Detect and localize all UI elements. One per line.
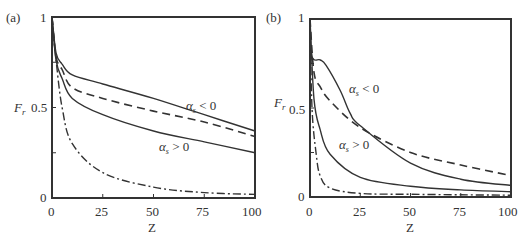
figure: (a) 0 0.5 1 Fr 0 25 50 75 100 Z αs < 0 α… bbox=[0, 0, 532, 239]
x-tick-75: 75 bbox=[453, 204, 466, 219]
y-tick-0: 0 bbox=[298, 189, 305, 204]
x-tick-100: 100 bbox=[498, 204, 518, 219]
panel-b-x-ticks: 0 25 50 75 100 bbox=[306, 204, 518, 219]
panel-a-curves bbox=[52, 17, 255, 198]
panel-a-y-title: Fr bbox=[13, 100, 26, 117]
panel-a-chart: (a) 0 0.5 1 Fr 0 25 50 75 100 Z αs < 0 α… bbox=[6, 10, 262, 235]
x-tick-25: 25 bbox=[353, 204, 366, 219]
y-tick-0-5: 0.5 bbox=[31, 100, 47, 115]
panel-b-y-ticks: 0 0.5 1 bbox=[289, 10, 305, 204]
panel-a-x-ticks: 0 25 50 75 100 bbox=[48, 204, 262, 219]
x-tick-100: 100 bbox=[242, 204, 262, 219]
panel-b-y-title: Fr bbox=[273, 95, 286, 112]
y-tick-1: 1 bbox=[40, 10, 47, 25]
panel-a-frame bbox=[52, 17, 255, 198]
x-tick-75: 75 bbox=[196, 204, 209, 219]
y-tick-0: 0 bbox=[40, 190, 47, 205]
panel-a-annotation-neg: αs < 0 bbox=[186, 98, 216, 115]
series-line-1 bbox=[52, 17, 255, 137]
panel-b-curves bbox=[310, 19, 511, 197]
panel-a-annotation-pos: αs > 0 bbox=[159, 139, 189, 156]
panel-b-annotation-pos: αs > 0 bbox=[339, 137, 369, 154]
x-tick-50: 50 bbox=[403, 204, 416, 219]
panel-b-chart: (b) 0 0.5 1 Fr 0 25 50 75 100 Z αs < 0 α… bbox=[266, 10, 518, 235]
panel-b-x-title: Z bbox=[406, 220, 414, 235]
series-line-0 bbox=[52, 17, 255, 131]
series-line-1 bbox=[310, 19, 511, 176]
panel-a-label: (a) bbox=[6, 10, 20, 25]
x-tick-50: 50 bbox=[146, 204, 159, 219]
x-tick-0: 0 bbox=[48, 204, 55, 219]
series-line-0 bbox=[310, 19, 511, 185]
x-tick-25: 25 bbox=[95, 204, 108, 219]
panel-b-frame bbox=[310, 19, 511, 197]
panel-b-label: (b) bbox=[266, 10, 281, 25]
panel-b-annotation-neg: αs < 0 bbox=[349, 81, 379, 98]
series-line-2 bbox=[310, 19, 511, 192]
panel-a-y-ticks: 0 0.5 1 bbox=[31, 10, 47, 205]
x-tick-0: 0 bbox=[306, 204, 313, 219]
series-line-3 bbox=[310, 19, 511, 195]
y-tick-0-5: 0.5 bbox=[289, 102, 305, 117]
y-tick-1: 1 bbox=[298, 10, 305, 25]
series-line-2 bbox=[52, 17, 255, 153]
panel-a-x-title: Z bbox=[148, 220, 156, 235]
